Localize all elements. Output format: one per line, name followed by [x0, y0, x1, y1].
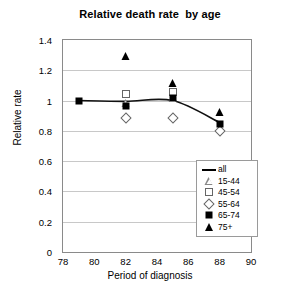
y-axis-title: Relative rate: [12, 73, 23, 163]
legend-key: [201, 222, 218, 233]
x-axis-title: Period of diagnosis: [0, 270, 300, 281]
legend-item-label: 55-64: [218, 199, 240, 210]
chart-container: Relative death rate by age 00.20.40.60.8…: [0, 0, 300, 293]
x-axis-tick-label: 82: [120, 256, 131, 267]
chart-legend: all15-4445-5455-6465-7475+: [196, 160, 258, 237]
y-axis-tick-label: 1.2: [39, 65, 52, 76]
legend-item-label: 15-44: [218, 176, 240, 187]
x-axis-tick-label: 84: [152, 256, 163, 267]
filled-triangle-icon: [205, 223, 213, 231]
x-axis-tick-label: 86: [183, 256, 194, 267]
legend-item-label: 45-54: [218, 187, 240, 198]
y-axis-tick-label: 1: [47, 95, 52, 106]
legend-item-75+: 75+: [201, 222, 253, 233]
legend-key: [201, 164, 218, 175]
y-axis-tick-label: 1.4: [39, 35, 52, 46]
y-axis-tick-label: 0.2: [39, 216, 52, 227]
legend-item-65-74: 65-74: [201, 210, 253, 221]
legend-item-label: 65-74: [218, 210, 240, 221]
x-axis-tick-label: 80: [89, 256, 100, 267]
legend-key: [201, 187, 218, 198]
x-axis-tick-label: 90: [246, 256, 257, 267]
open-diamond-icon: [203, 198, 214, 209]
y-axis-tick-label: 0.8: [39, 125, 52, 136]
open-triangle-icon: [205, 177, 214, 185]
y-axis-tick-labels: 00.20.40.60.811.21.4: [0, 39, 58, 253]
x-axis-tick-label: 88: [214, 256, 225, 267]
x-axis-tick-label: 78: [58, 256, 69, 267]
legend-item-all: all: [201, 164, 253, 175]
legend-item-45-54: 45-54: [201, 187, 253, 198]
y-axis-tick-label: 0.6: [39, 156, 52, 167]
open-square-icon: [205, 188, 213, 196]
legend-item-15-44: 15-44: [201, 176, 253, 187]
y-axis-tick-label: 0: [47, 247, 52, 258]
y-axis-tick-label: 0.4: [39, 186, 52, 197]
legend-item-label: all: [218, 164, 227, 175]
legend-key: [201, 210, 218, 221]
filled-square-icon: [206, 212, 213, 219]
legend-line-swatch: [202, 169, 216, 171]
legend-item-55-64: 55-64: [201, 199, 253, 210]
chart-title: Relative death rate by age: [0, 8, 300, 20]
legend-key: [201, 199, 218, 210]
legend-item-label: 75+: [218, 222, 232, 233]
legend-key: [201, 176, 218, 187]
